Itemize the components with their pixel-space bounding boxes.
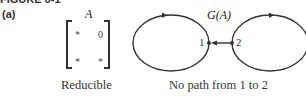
node-1-label: 1 (199, 36, 205, 48)
self-loop-node-2 (232, 13, 306, 72)
graph-title: G(A) (207, 8, 231, 23)
node-1-dot (207, 41, 211, 45)
node-2-dot (230, 41, 234, 45)
node-2-label: 2 (236, 36, 242, 48)
self-loop-node-1 (133, 13, 209, 72)
edge-2-to-1 (211, 41, 232, 46)
graph-caption: No path from 1 to 2 (169, 78, 268, 93)
